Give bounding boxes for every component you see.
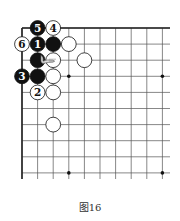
black-stone [30,69,45,84]
figure-caption: 图16 [0,199,180,214]
move-number: 2 [34,86,41,98]
move-number: 1 [34,38,41,50]
star-point [161,75,165,79]
white-stone [46,117,61,132]
white-stone [61,37,76,52]
white-stone [77,53,92,68]
move-number: 4 [50,22,57,34]
star-point [67,75,71,79]
move-number: 3 [18,70,25,82]
white-stone [46,85,61,100]
white-stone [46,69,61,84]
go-board-diagram: 546132 [0,0,180,195]
black-stone [46,37,61,52]
move-number: 6 [18,38,25,50]
star-point [67,171,71,175]
move-number: 5 [34,22,41,34]
star-point [161,171,165,175]
